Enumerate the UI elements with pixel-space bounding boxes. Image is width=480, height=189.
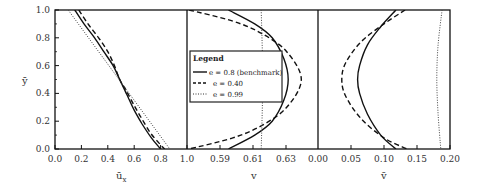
x-tick-label: 0.05 bbox=[341, 154, 361, 164]
curve-dotted bbox=[437, 10, 442, 149]
y-tick-label: 0.0 bbox=[36, 144, 51, 154]
y-tick-label: 1.0 bbox=[36, 5, 51, 15]
x-tick-label: 0.2 bbox=[74, 154, 88, 164]
legend-entry-2: e = 0.99 bbox=[213, 91, 243, 99]
x-tick-label: 0.20 bbox=[440, 154, 460, 164]
x-tick-label: 0.63 bbox=[276, 154, 296, 164]
curve-dashed bbox=[79, 10, 165, 149]
y-tick-label: 0.8 bbox=[36, 33, 51, 43]
curve-solid bbox=[358, 10, 396, 149]
y-tick-label: 0.2 bbox=[36, 116, 50, 126]
x-tick-label: 0.15 bbox=[407, 154, 427, 164]
x-tick-label: 0.00 bbox=[308, 154, 328, 164]
y-tick-label: 0.6 bbox=[36, 61, 51, 71]
legend-entry-1: e = 0.40 bbox=[213, 80, 243, 88]
panel1-x-axis-title: ūx bbox=[116, 170, 126, 184]
x-tick-label: 0.0 bbox=[48, 154, 63, 164]
x-tick-label: 0.8 bbox=[153, 154, 168, 164]
x-tick-label: 0.59 bbox=[210, 154, 230, 164]
x-tick-label: 0.10 bbox=[374, 154, 394, 164]
x-tick-label: 1.0 bbox=[180, 154, 195, 164]
panel1-x-axis-title-sub: x bbox=[122, 176, 126, 184]
x-tick-label: 0.6 bbox=[127, 154, 142, 164]
legend-entry-0: e = 0.8 (benchmark) bbox=[209, 69, 283, 77]
legend: Legend e = 0.8 (benchmark) e = 0.40 e = … bbox=[190, 51, 283, 102]
legend-title: Legend bbox=[193, 54, 225, 63]
chart-figure: 0.00.20.40.60.81.00.00.20.40.60.81.00.59… bbox=[0, 0, 480, 189]
panel2-x-axis-title: v bbox=[250, 170, 257, 181]
panel3-x-axis-title: v̄ bbox=[380, 170, 387, 181]
x-tick-label: 0.4 bbox=[101, 154, 116, 164]
y-tick-label: 0.4 bbox=[36, 88, 51, 98]
y-axis-title: ȳ bbox=[21, 75, 28, 86]
x-tick-label: 0.61 bbox=[243, 154, 263, 164]
curve-dashed bbox=[342, 10, 407, 149]
